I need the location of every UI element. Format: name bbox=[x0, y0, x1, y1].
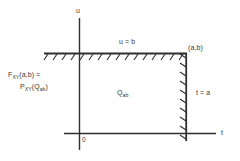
formula-P-subscript: XY bbox=[25, 86, 32, 92]
right-boundary-hatching bbox=[180, 54, 186, 139]
cdf-formula-line-2: PXY(Qab) bbox=[8, 82, 78, 91]
origin-label: 0 bbox=[82, 135, 86, 144]
u-axis-label: u bbox=[76, 6, 80, 15]
corner-point-label: (a,b) bbox=[188, 43, 203, 52]
region-label: Qab bbox=[117, 88, 128, 97]
diagram-canvas: u t 0 u = b (a,b) t = a Qab FXY(a,b) = P… bbox=[0, 0, 240, 161]
cdf-formula-line-1: FXY(a,b) = bbox=[8, 71, 40, 78]
t-axis-label: t bbox=[221, 128, 223, 137]
top-boundary-label: u = b bbox=[119, 37, 135, 46]
cdf-formula: FXY(a,b) = PXY(Qab) bbox=[8, 70, 78, 91]
formula-P-open: (Q bbox=[32, 83, 40, 90]
region-label-sub: ab bbox=[123, 92, 129, 98]
top-boundary-hatching bbox=[44, 54, 183, 60]
formula-P-close: ) bbox=[45, 83, 47, 90]
formula-F-args: (a,b) = bbox=[19, 71, 40, 78]
right-boundary-label: t = a bbox=[196, 88, 210, 97]
